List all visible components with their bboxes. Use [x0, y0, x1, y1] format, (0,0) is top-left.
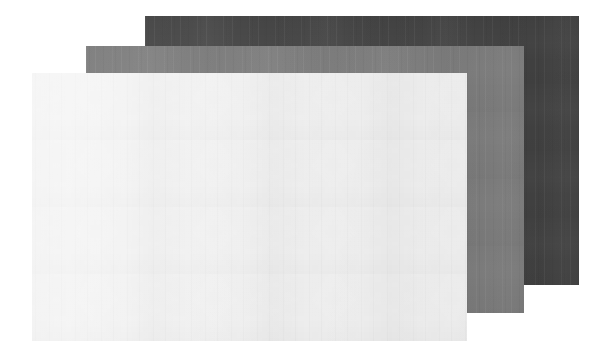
light-sheet[interactable] — [32, 73, 467, 341]
scene-canvas — [0, 0, 612, 359]
light-sheet-shading — [32, 73, 467, 341]
